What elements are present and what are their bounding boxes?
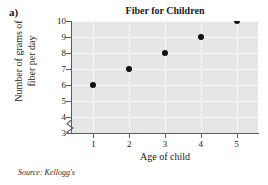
x-axis-tick-label: 1 xyxy=(85,140,101,149)
x-axis-tick xyxy=(165,134,166,138)
gridline-vertical xyxy=(237,21,238,133)
source-note: Source: Kellogg's xyxy=(18,168,75,177)
y-axis-tick-label: 6 xyxy=(46,81,66,90)
y-axis-line xyxy=(71,21,72,133)
y-axis-tick xyxy=(66,37,71,38)
x-axis-tick xyxy=(129,134,130,138)
y-axis-tick-label: 10 xyxy=(46,17,66,26)
plot-area xyxy=(72,21,258,133)
y-axis-tick-label: 3 xyxy=(46,129,66,138)
y-axis-tick-label: 4 xyxy=(46,113,66,122)
y-axis-tick xyxy=(66,117,71,118)
gridline-vertical xyxy=(93,21,94,133)
x-axis-tick-label: 5 xyxy=(229,140,245,149)
x-axis-tick-label: 3 xyxy=(157,140,173,149)
y-axis-tick-labels: 109876543 xyxy=(42,0,66,140)
y-axis-title: Number of grams of fiber per day xyxy=(12,0,38,122)
x-axis-tick xyxy=(201,134,202,138)
axis-break-icon xyxy=(64,120,76,134)
y-axis-tick-label: 5 xyxy=(46,97,66,106)
y-axis-tick xyxy=(66,53,71,54)
y-axis-tick-label: 7 xyxy=(46,65,66,74)
figure-container: a) Fiber for Children 109876543 12345 Ag… xyxy=(0,0,268,185)
data-point xyxy=(234,21,240,24)
y-axis-tick-label: 9 xyxy=(46,33,66,42)
x-axis-title: Age of child xyxy=(72,151,258,162)
chart-title: Fiber for Children xyxy=(72,5,258,17)
data-point xyxy=(198,34,204,40)
y-axis-tick xyxy=(66,85,71,86)
y-axis-tick xyxy=(66,21,71,22)
gridline-vertical xyxy=(129,21,130,133)
x-axis-tick-label: 4 xyxy=(193,140,209,149)
y-axis-title-line-1: Number of grams of xyxy=(12,0,25,122)
data-point xyxy=(162,50,168,56)
data-point xyxy=(126,66,132,72)
data-point xyxy=(90,82,96,88)
y-axis-tick-label: 8 xyxy=(46,49,66,58)
x-axis-tick-label: 2 xyxy=(121,140,137,149)
gridline-vertical xyxy=(165,21,166,133)
x-axis-tick xyxy=(237,134,238,138)
x-axis-tick xyxy=(93,134,94,138)
y-axis-title-line-2: fiber per day xyxy=(25,0,38,122)
y-axis-tick xyxy=(66,101,71,102)
y-axis-tick xyxy=(66,69,71,70)
